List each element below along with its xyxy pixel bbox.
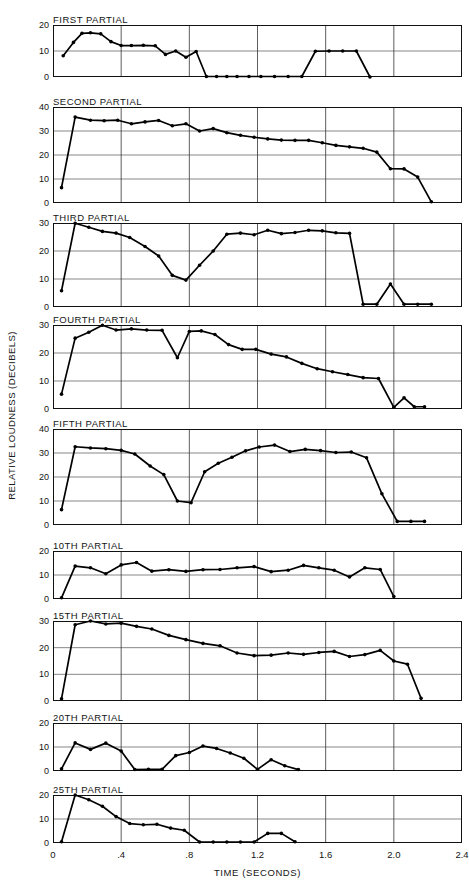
data-point	[130, 122, 134, 126]
y-tick-label: 30	[39, 320, 53, 330]
data-point	[87, 225, 91, 229]
y-axis-label: RELATIVE LOUDNESS (DECIBELS)	[0, 0, 22, 830]
data-point	[133, 452, 137, 456]
plot-area: 0102030	[53, 325, 462, 409]
data-point	[317, 651, 321, 655]
data-point	[157, 254, 161, 258]
partial-panel: 20TH PARTIAL01020	[22, 712, 462, 775]
data-point	[101, 323, 105, 327]
data-point	[416, 302, 420, 306]
data-point	[228, 751, 232, 755]
y-tick-label: 20	[39, 643, 53, 653]
data-point	[334, 451, 338, 455]
y-tick-label: 0	[44, 302, 53, 312]
data-point	[257, 445, 261, 449]
plot-area: 010203040	[53, 107, 462, 203]
data-point	[266, 832, 270, 836]
y-tick-label: 0	[44, 696, 53, 706]
y-tick-label: 20	[39, 20, 53, 30]
data-point	[348, 655, 352, 659]
data-trace	[62, 223, 432, 304]
x-tick-label: 1.6	[319, 849, 332, 860]
data-point	[160, 768, 164, 772]
data-point	[392, 406, 396, 410]
data-point	[307, 228, 311, 232]
partial-panel: FIFTH PARTIAL010203040	[22, 418, 462, 529]
data-point	[252, 654, 256, 658]
data-point	[153, 44, 157, 48]
data-point	[167, 568, 171, 572]
data-point	[244, 449, 248, 453]
data-point	[365, 456, 369, 460]
data-point	[119, 44, 123, 48]
data-point	[218, 568, 222, 572]
y-tick-label: 20	[39, 718, 53, 728]
data-point	[380, 492, 384, 496]
data-point	[61, 54, 65, 58]
data-point	[119, 621, 123, 625]
data-point	[182, 828, 186, 832]
y-tick-label: 40	[39, 424, 53, 434]
data-point	[300, 75, 304, 79]
data-point	[188, 751, 192, 755]
data-point	[273, 75, 277, 79]
data-point	[269, 570, 273, 574]
data-point	[201, 744, 205, 748]
plot-area: 01020	[53, 795, 462, 843]
plot-area: 01020	[53, 25, 462, 77]
data-point	[378, 568, 382, 572]
data-point	[188, 330, 192, 334]
data-point	[135, 561, 139, 565]
data-point	[332, 650, 336, 654]
data-point	[164, 53, 168, 57]
data-point	[150, 627, 154, 631]
data-point	[269, 352, 273, 356]
data-point	[148, 464, 152, 468]
data-point	[389, 167, 393, 171]
panel-plot	[53, 795, 462, 843]
data-point	[225, 232, 229, 236]
data-point	[73, 336, 77, 340]
data-point	[423, 520, 427, 524]
data-point	[109, 40, 113, 44]
panel-title: FIRST PARTIAL	[53, 14, 128, 25]
data-point	[184, 570, 188, 574]
data-point	[198, 129, 202, 133]
data-point	[242, 756, 246, 760]
data-trace	[62, 325, 425, 407]
data-point	[235, 75, 239, 79]
data-point	[89, 31, 93, 35]
data-point	[334, 231, 338, 235]
panel-plot	[53, 325, 462, 409]
y-tick-label: 10	[39, 496, 53, 506]
y-tick-label: 20	[39, 246, 53, 256]
panel-stack: FIRST PARTIAL01020SECOND PARTIAL01020304…	[22, 0, 462, 895]
panel-plot	[53, 723, 462, 771]
data-point	[160, 329, 164, 333]
data-point	[363, 566, 367, 570]
data-point	[317, 566, 321, 570]
partial-panel: SECOND PARTIAL010203040	[22, 96, 462, 207]
data-point	[227, 343, 231, 347]
data-point	[130, 44, 134, 48]
x-tick-label: .4	[117, 849, 125, 860]
data-point	[157, 119, 161, 123]
data-point	[315, 367, 319, 371]
data-point	[269, 653, 273, 657]
data-point	[87, 330, 91, 334]
data-point	[266, 228, 270, 232]
data-point	[174, 754, 178, 758]
data-point	[89, 446, 93, 450]
panel-plot	[53, 429, 462, 525]
data-point	[363, 653, 367, 657]
x-tick-label: .8	[185, 849, 193, 860]
data-point	[361, 146, 365, 150]
data-point	[412, 405, 416, 409]
data-point	[288, 450, 292, 454]
data-point	[176, 356, 180, 360]
data-point	[119, 749, 123, 753]
y-tick-label: 0	[44, 838, 53, 848]
data-trace	[62, 117, 432, 202]
x-tick-label: 0	[50, 849, 55, 860]
y-tick-label: 0	[44, 766, 53, 776]
